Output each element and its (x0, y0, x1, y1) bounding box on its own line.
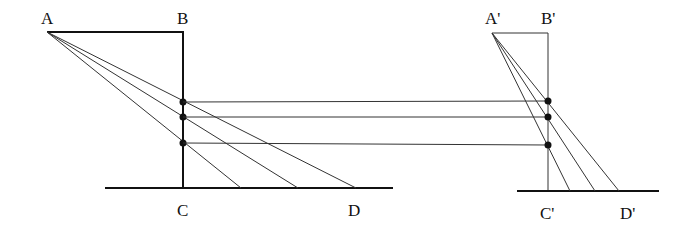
projection-connectors (183, 101, 548, 145)
right-ray-1 (492, 33, 570, 191)
connector-3 (183, 143, 548, 145)
label-C: C (177, 201, 188, 220)
right-dot-1 (545, 98, 552, 105)
left-ray-1 (47, 32, 241, 188)
left-figure: A B C D (41, 9, 393, 220)
left-ray-2 (47, 32, 298, 188)
label-D-prime: D' (620, 204, 635, 223)
right-dot-2 (545, 114, 552, 121)
label-D: D (348, 201, 360, 220)
label-C-prime: C' (540, 204, 554, 223)
right-ray-2 (492, 33, 595, 191)
diagram-canvas: A B C D A' B' C' D' (0, 0, 694, 233)
right-figure: A' B' C' D' (485, 9, 659, 223)
connector-1 (183, 101, 548, 102)
label-A: A (41, 9, 54, 28)
label-A-prime: A' (485, 9, 500, 28)
right-frame-ABC (492, 33, 548, 191)
left-frame-ABC (47, 32, 183, 188)
right-ray-3 (492, 33, 619, 191)
label-B: B (177, 9, 188, 28)
label-B-prime: B' (541, 9, 555, 28)
left-ray-3 (47, 32, 356, 188)
right-dot-3 (545, 142, 552, 149)
